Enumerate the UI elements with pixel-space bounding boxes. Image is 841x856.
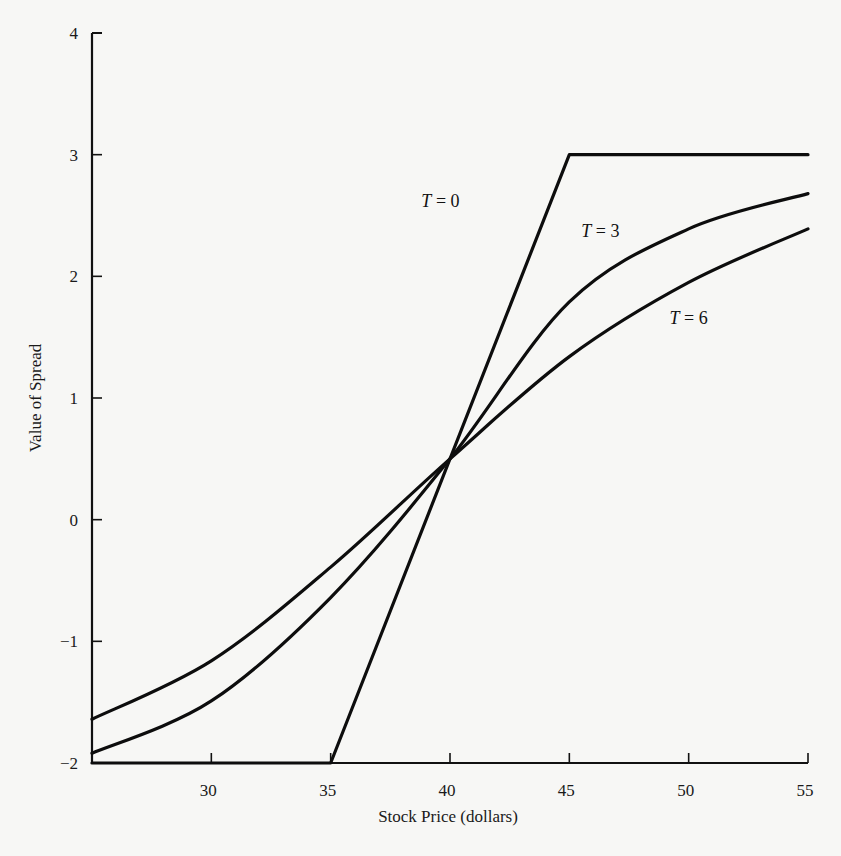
curve-label: T = 6 <box>670 308 708 328</box>
x-tick-label: 50 <box>677 781 694 800</box>
y-tick-label: 4 <box>70 24 79 43</box>
x-tick-label: 55 <box>797 781 814 800</box>
y-tick-label: 2 <box>70 267 79 286</box>
axes <box>92 33 808 764</box>
y-tick-label: 0 <box>70 511 79 530</box>
x-tick-label: 40 <box>439 781 456 800</box>
curve-t6 <box>92 229 808 719</box>
x-axis-title: Stock Price (dollars) <box>378 807 518 826</box>
x-tick-label: 30 <box>200 781 217 800</box>
curve-label: T = 0 <box>421 191 459 211</box>
x-tick-label: 45 <box>558 781 575 800</box>
x-tick-label: 35 <box>319 781 336 800</box>
y-tick-label: −1 <box>60 632 78 651</box>
chart: −2−101234303540455055 T = 0T = 3T = 6 St… <box>0 0 841 856</box>
y-axis-title: Value of Spread <box>26 343 45 452</box>
curve-label: T = 3 <box>581 221 619 241</box>
data-series <box>92 155 808 763</box>
y-tick-label: 3 <box>70 146 79 165</box>
y-tick-label: −2 <box>60 754 78 773</box>
y-tick-label: 1 <box>70 389 79 408</box>
